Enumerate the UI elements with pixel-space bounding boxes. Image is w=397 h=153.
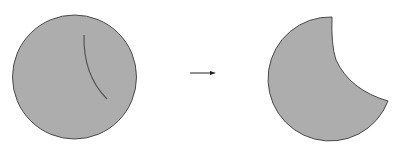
before-circle	[13, 15, 137, 139]
arrow-head-icon	[210, 71, 216, 75]
before-shape	[13, 15, 137, 139]
after-crescent-shape	[268, 17, 388, 141]
after-shape	[268, 17, 388, 141]
diagram-canvas	[0, 0, 397, 153]
transform-arrow	[190, 71, 216, 75]
